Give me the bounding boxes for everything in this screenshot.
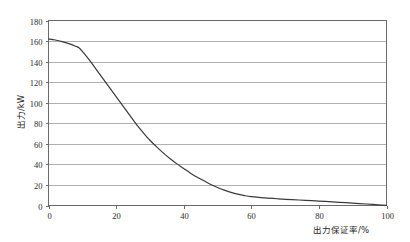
power-guarantee-rate-chart: 020406080100120140160180 020406080100 出力… <box>0 0 410 242</box>
y-tick-label-40: 40 <box>34 160 43 170</box>
x-tick-label-80: 80 <box>315 211 324 221</box>
y-tick-label-0: 0 <box>38 202 42 212</box>
y-tick-label-20: 20 <box>34 181 43 191</box>
x-tick-label-100: 100 <box>381 211 394 221</box>
x-tick-label-40: 40 <box>180 211 189 221</box>
y-axis-title: 出力/kW <box>16 94 26 129</box>
y-tick-label-100: 100 <box>30 99 43 109</box>
y-tick-label-160: 160 <box>30 37 43 47</box>
y-tick-label-80: 80 <box>34 119 43 129</box>
x-tick-label-60: 60 <box>247 211 256 221</box>
y-tick-label-140: 140 <box>30 58 43 68</box>
y-tick-label-60: 60 <box>34 140 43 150</box>
y-tick-label-180: 180 <box>30 17 43 27</box>
x-tick-label-20: 20 <box>112 211 121 221</box>
chart-figure: 020406080100120140160180 020406080100 出力… <box>0 0 410 242</box>
y-tick-label-120: 120 <box>30 78 43 88</box>
x-axis-title: 出力保证率/% <box>313 225 369 235</box>
x-tick-label-0: 0 <box>47 211 51 221</box>
